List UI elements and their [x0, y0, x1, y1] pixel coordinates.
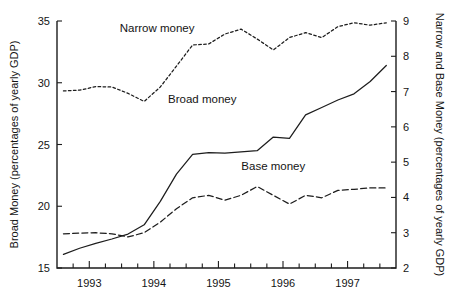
x-axis-tick-label: 1994 [142, 277, 166, 289]
series-line-narrow-money [63, 23, 386, 102]
y-axis-tick-label: 20 [38, 200, 50, 212]
y2-axis-tick-label: 6 [403, 121, 409, 133]
y2-axis-tick-label: 4 [403, 191, 409, 203]
x-axis-tick-label: 1997 [335, 277, 359, 289]
y2-axis-title: Narrow and Base Money (percentages of ye… [434, 13, 446, 277]
data-series [63, 23, 386, 255]
y2-axis-tick-label: 2 [403, 262, 409, 274]
series-line-base-money [63, 186, 386, 236]
y2-axis-tick-label: 7 [403, 86, 409, 98]
axis-titles: Broad Money (percentages of yearly GDP)N… [8, 13, 446, 277]
y-axis-title: Broad Money (percentages of yearly GDP) [8, 41, 20, 249]
annotation-narrow-money: Narrow money [120, 22, 195, 34]
axis-tick-labels: 15202530352345678919931994199519961997 [38, 15, 409, 289]
chart-container: 15202530352345678919931994199519961997 N… [0, 0, 452, 306]
plot-frame [57, 21, 396, 268]
money-aggregates-line-chart: 15202530352345678919931994199519961997 N… [0, 0, 452, 306]
y2-axis-tick-label: 3 [403, 227, 409, 239]
axis-ticks [57, 21, 396, 268]
annotation-broad-money: Broad money [168, 93, 237, 105]
y2-axis-tick-label: 5 [403, 156, 409, 168]
annotation-base-money: Base money [241, 160, 305, 172]
y-axis-tick-label: 15 [38, 262, 50, 274]
x-axis-tick-label: 1996 [271, 277, 295, 289]
y2-axis-tick-label: 9 [403, 15, 409, 27]
y2-axis-tick-label: 8 [403, 50, 409, 62]
x-axis-tick-label: 1993 [77, 277, 101, 289]
x-axis-tick-label: 1995 [206, 277, 230, 289]
y-axis-tick-label: 35 [38, 15, 50, 27]
plot-border [57, 21, 396, 268]
series-annotations: Narrow moneyBroad moneyBase money [120, 22, 306, 172]
y-axis-tick-label: 25 [38, 139, 50, 151]
y-axis-tick-label: 30 [38, 77, 50, 89]
